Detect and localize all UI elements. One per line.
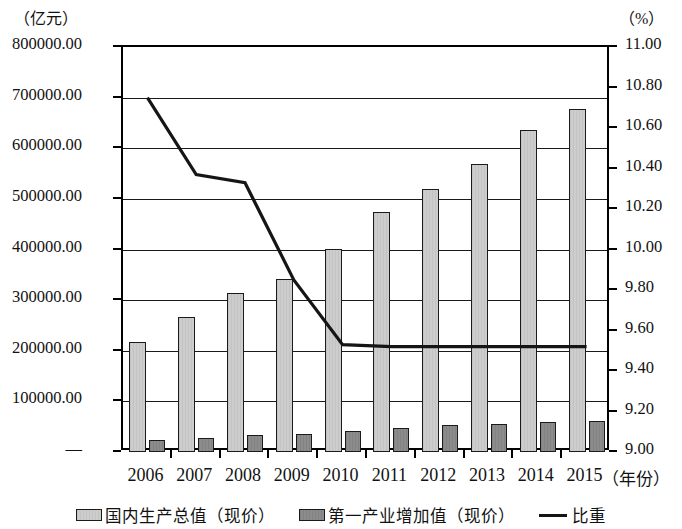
right-axis-tick-label: 9.20 (625, 399, 654, 419)
left-axis-tick-mark (113, 349, 121, 351)
primary-swatch-icon (299, 509, 325, 521)
x-axis-tick-label: 2010 (316, 465, 366, 486)
bar-gdp (178, 317, 195, 452)
left-axis-tick-mark (113, 248, 121, 250)
bar-primary-industry (540, 422, 556, 452)
left-axis-tick-label: 100000.00 (0, 388, 82, 408)
right-axis-tick-label: 10.20 (625, 196, 662, 216)
left-axis-tick-label: 200000.00 (0, 338, 82, 358)
legend-label: 第一产业增加值（现价） (328, 503, 515, 527)
right-axis-tick-mark (609, 329, 617, 331)
x-axis-tick-mark (219, 450, 221, 458)
right-axis-tick-label: 9.60 (625, 318, 654, 338)
x-axis-tick-label: 2007 (169, 465, 219, 486)
right-axis-unit-label: （%） (619, 5, 664, 29)
x-axis-tick-mark (267, 450, 269, 458)
legend-item: 国内生产总值（现价） (76, 503, 275, 527)
left-axis-tick-mark (113, 96, 121, 98)
chart-legend: 国内生产总值（现价）第一产业增加值（现价）比重 (0, 502, 682, 528)
right-axis-tick-mark (609, 410, 617, 412)
right-axis-tick-mark (609, 248, 617, 250)
x-axis-tick-mark (414, 450, 416, 458)
x-axis-tick-mark (316, 450, 318, 458)
bar-gdp (129, 342, 146, 452)
x-axis-tick-label: 2012 (413, 465, 463, 486)
left-axis-tick-label: 700000.00 (0, 85, 82, 105)
right-axis-tick-label: 9.40 (625, 358, 654, 378)
right-axis-tick-label: 10.60 (625, 115, 662, 135)
left-axis-tick-label: 500000.00 (0, 186, 82, 206)
legend-label: 比重 (572, 503, 606, 527)
bar-primary-industry (442, 425, 458, 452)
bar-primary-industry (491, 424, 507, 452)
left-axis-tick-mark (113, 450, 121, 452)
x-axis-tick-label: 2013 (462, 465, 512, 486)
bar-gdp (227, 293, 244, 452)
bar-primary-industry (393, 428, 409, 452)
left-axis-tick-mark (113, 197, 121, 199)
left-axis-tick-mark (113, 45, 121, 47)
x-axis-tick-mark (170, 450, 172, 458)
x-axis-title: （年份） (602, 465, 670, 490)
x-axis-tick-label: 2006 (120, 465, 170, 486)
x-axis-tick-mark (511, 450, 513, 458)
bar-gdp (373, 212, 390, 452)
chart-figure: （亿元） （%） 800000.00700000.00600000.005000… (0, 0, 682, 529)
x-axis-tick-mark (560, 450, 562, 458)
x-axis-labels: （年份） 20062007200820092010201120122013201… (0, 465, 682, 495)
gridline (123, 98, 607, 99)
x-axis-tick-label: 2009 (267, 465, 317, 486)
bar-gdp (569, 109, 586, 452)
right-axis-tick-mark (609, 45, 617, 47)
right-axis-tick-label: 9.80 (625, 277, 654, 297)
left-axis-tick-mark (113, 399, 121, 401)
x-axis-tick-label: 2008 (218, 465, 268, 486)
legend-label: 国内生产总值（现价） (105, 503, 275, 527)
left-axis-tick-label: 600000.00 (0, 135, 82, 155)
right-axis-tick-mark (609, 167, 617, 169)
bar-primary-industry (247, 435, 263, 452)
right-axis-tick-mark (609, 86, 617, 88)
left-axis-unit-label: （亿元） (14, 5, 78, 29)
right-axis-tick-label: 10.80 (625, 75, 662, 95)
right-axis-tick-mark (609, 126, 617, 128)
right-axis-tick-mark (609, 288, 617, 290)
line-swatch-icon (539, 514, 567, 517)
left-axis-tick-mark (113, 146, 121, 148)
left-axis-tick-mark (113, 298, 121, 300)
right-axis-tick-label: 10.40 (625, 156, 662, 176)
left-axis-tick-label: 800000.00 (0, 34, 82, 54)
bar-gdp (520, 130, 537, 452)
right-axis-tick-mark (609, 369, 617, 371)
bar-primary-industry (296, 434, 312, 452)
x-axis-tick-mark (463, 450, 465, 458)
bar-primary-industry (198, 438, 214, 452)
left-axis-tick-label: 300000.00 (0, 287, 82, 307)
left-axis-tick-label: 400000.00 (0, 237, 82, 257)
bar-gdp (422, 189, 439, 452)
bar-primary-industry (149, 440, 165, 452)
legend-item: 第一产业增加值（现价） (299, 503, 515, 527)
x-axis-tick-mark (365, 450, 367, 458)
x-axis-tick-label: 2014 (511, 465, 561, 486)
bar-gdp (276, 279, 293, 452)
x-axis-tick-label: 2015 (560, 465, 610, 486)
gdp-swatch-icon (76, 509, 102, 521)
right-axis-tick-label: 9.00 (625, 439, 654, 459)
right-axis-tick-mark (609, 207, 617, 209)
legend-item: 比重 (539, 503, 606, 527)
x-axis-tick-label: 2011 (364, 465, 414, 486)
right-axis-tick-label: 11.00 (625, 34, 662, 54)
bar-primary-industry (345, 431, 361, 452)
plot-area (121, 45, 609, 450)
bar-gdp (325, 249, 342, 452)
right-axis-tick-mark (609, 450, 617, 452)
bar-primary-industry (589, 421, 605, 452)
left-axis-tick-label: — (0, 439, 82, 459)
bar-gdp (471, 164, 488, 452)
right-axis-tick-label: 10.00 (625, 237, 662, 257)
